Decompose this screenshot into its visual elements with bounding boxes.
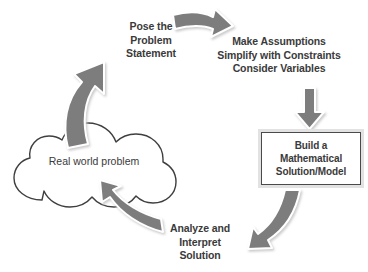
analyze-line-2: Interpret [179, 236, 221, 248]
step-label-assumptions: Make Assumptions Simplify with Constrain… [204, 35, 354, 76]
assumptions-to-model-arrow [295, 88, 324, 129]
diagram-canvas: Pose the Problem Statement Make Assumpti… [0, 0, 368, 272]
analyze-line-3: Solution [179, 249, 220, 261]
assumptions-line-1: Make Assumptions [232, 35, 326, 47]
model-to-analyze-arrow [248, 190, 300, 249]
step-label-analyze-interpret: Analyze and Interpret Solution [160, 222, 240, 263]
model-line-2: Mathematical [280, 153, 342, 164]
pose-line-1: Pose the [130, 20, 173, 32]
model-node-box: Build a Mathematical Solution/Model [261, 132, 361, 185]
step-label-pose-problem: Pose the Problem Statement [111, 20, 191, 61]
assumptions-line-2: Simplify with Constraints [217, 49, 341, 61]
model-node-label: Build a Mathematical Solution/Model [262, 139, 360, 178]
model-line-1: Build a [295, 140, 328, 151]
pose-line-2: Problem [130, 34, 171, 46]
model-line-3: Solution/Model [276, 166, 346, 177]
assumptions-line-3: Consider Variables [233, 62, 326, 74]
cloud-node-label: Real world problem [20, 155, 168, 167]
pose-line-3: Statement [126, 47, 176, 59]
analyze-line-1: Analyze and [170, 222, 230, 234]
